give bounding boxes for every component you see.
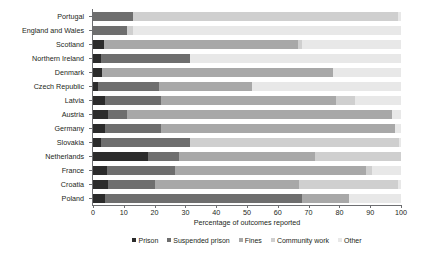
y-axis-tick [89, 198, 92, 199]
legend-item[interactable]: Prison [132, 237, 158, 244]
y-axis-label: Germany [0, 124, 88, 133]
y-axis-label: Czech Republic [0, 82, 88, 91]
bar-segment [93, 166, 107, 175]
bar-segment [133, 26, 401, 35]
bar-segment [93, 40, 104, 49]
bar-segment [395, 124, 401, 133]
bar-segment [105, 194, 302, 203]
bar-segment [102, 68, 333, 77]
bar-segment [392, 110, 401, 119]
bar-segment [108, 180, 154, 189]
bar-segment [190, 138, 399, 147]
bar-row[interactable] [93, 40, 401, 49]
stacked-bar [93, 138, 401, 147]
x-axis-tick [339, 205, 340, 208]
x-axis-tick [278, 205, 279, 208]
bar-segment [104, 40, 298, 49]
bar-segment [155, 180, 300, 189]
bar-row[interactable] [93, 68, 401, 77]
bar-row[interactable] [93, 180, 401, 189]
bar-segment [93, 68, 102, 77]
stacked-bar [93, 68, 401, 77]
legend-item[interactable]: Fines [239, 237, 262, 244]
bar-segment [107, 166, 175, 175]
y-axis-tick [89, 72, 92, 73]
y-axis-tick [89, 58, 92, 59]
bar-row[interactable] [93, 96, 401, 105]
bar-segment [252, 82, 401, 91]
y-axis-label: Portugal [0, 12, 88, 21]
bar-row[interactable] [93, 26, 401, 35]
y-axis-label: Netherlands [0, 152, 88, 161]
bar-segment [105, 96, 160, 105]
bar-row[interactable] [93, 54, 401, 63]
y-axis-label: Slovakia [0, 138, 88, 147]
stacked-bar [93, 152, 401, 161]
y-axis-tick [89, 86, 92, 87]
bar-segment [302, 194, 348, 203]
stacked-bar [93, 110, 401, 119]
bar-row[interactable] [93, 110, 401, 119]
y-axis-tick [89, 44, 92, 45]
bar-segment [108, 110, 126, 119]
legend-label: Community work [277, 237, 329, 244]
bar-segment [93, 124, 105, 133]
bar-segment [302, 40, 401, 49]
x-axis-tick [216, 205, 217, 208]
x-axis-tick-label: 80 [335, 207, 343, 218]
y-axis-label: Northern Ireland [0, 54, 88, 63]
x-axis-tick [370, 205, 371, 208]
plot-area [93, 9, 401, 205]
y-axis-tick [89, 170, 92, 171]
bar-segment [93, 194, 105, 203]
y-axis-tick [89, 142, 92, 143]
x-axis-tick [185, 205, 186, 208]
x-axis-tick [309, 205, 310, 208]
y-axis-label: Poland [0, 194, 88, 203]
legend-item[interactable]: Community work [271, 237, 329, 244]
bar-row[interactable] [93, 12, 401, 21]
bar-segment [336, 96, 354, 105]
legend-swatch-icon [239, 238, 243, 242]
bar-segment [398, 12, 401, 21]
x-axis-tick [93, 205, 94, 208]
bar-row[interactable] [93, 138, 401, 147]
x-axis-tick-label: 50 [243, 207, 251, 218]
legend-swatch-icon [338, 238, 342, 242]
chart-figure: PortugalEngland and WalesScotlandNorther… [0, 0, 423, 259]
stacked-bar [93, 12, 401, 21]
bar-segment [355, 96, 401, 105]
stacked-bar [93, 54, 401, 63]
bar-segment [93, 152, 148, 161]
bar-segment [93, 138, 101, 147]
bar-row[interactable] [93, 194, 401, 203]
y-axis-label: Denmark [0, 68, 88, 77]
bar-segment [93, 26, 127, 35]
x-axis-tick-label: 100 [395, 207, 407, 218]
bar-row[interactable] [93, 152, 401, 161]
bar-segment [161, 124, 395, 133]
bar-segment [93, 96, 105, 105]
bar-segment [93, 54, 101, 63]
bar-row[interactable] [93, 124, 401, 133]
bar-segment [98, 82, 160, 91]
y-axis-tick [89, 156, 92, 157]
y-axis-label: England and Wales [0, 26, 88, 35]
legend-item[interactable]: Other [338, 237, 362, 244]
bar-segment [105, 124, 160, 133]
bar-segment [190, 54, 401, 63]
bar-segment [175, 166, 366, 175]
legend-label: Prison [138, 237, 158, 244]
bar-row[interactable] [93, 82, 401, 91]
chart-legend: PrisonSuspended prisonFinesCommunity wor… [93, 234, 401, 246]
bar-segment [299, 180, 398, 189]
x-axis-tick-label: 30 [181, 207, 189, 218]
legend-swatch-icon [271, 238, 275, 242]
x-axis-tick [247, 205, 248, 208]
bar-segment [93, 180, 108, 189]
bar-row[interactable] [93, 166, 401, 175]
bar-segment [148, 152, 179, 161]
y-axis-label: Scotland [0, 40, 88, 49]
legend-label: Other [344, 237, 362, 244]
legend-item[interactable]: Suspended prison [167, 237, 229, 244]
